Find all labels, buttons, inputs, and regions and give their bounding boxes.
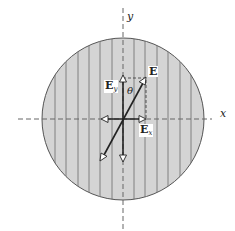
e-label: E [148, 66, 158, 77]
e-label-text: E [149, 65, 157, 78]
ex-label-subscript: x [148, 129, 152, 137]
y-axis-label: y [127, 11, 133, 22]
ey-label-subscript: y [113, 85, 117, 93]
theta-label: θ [127, 86, 133, 96]
ey-label: Ey [104, 80, 118, 93]
polarizer-diagram: y x E Ey Ex θ [0, 0, 235, 231]
x-axis-label: x [220, 108, 226, 119]
diagram-canvas [0, 0, 235, 231]
ex-label: Ex [139, 124, 153, 137]
